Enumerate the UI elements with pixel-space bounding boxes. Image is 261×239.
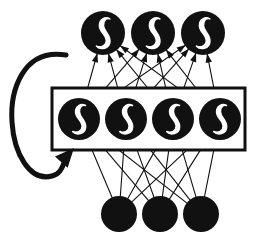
neuron-node-input-3	[183, 196, 219, 232]
arrowhead-icon	[190, 53, 196, 63]
neuron-node-input-2	[142, 196, 178, 232]
neural-network-canvas	[0, 0, 261, 239]
neuron-node-output-3	[181, 11, 225, 55]
neuron-node-hidden-1	[58, 98, 100, 140]
neuron-node-hidden-3	[152, 98, 194, 140]
neuron-circle	[142, 196, 178, 232]
neuron-circle	[183, 196, 219, 232]
neuron-node-hidden-2	[105, 98, 147, 140]
neuron-node-hidden-4	[199, 98, 241, 140]
neuron-node-input-1	[101, 196, 137, 232]
arrowhead-icon	[108, 53, 114, 63]
arrowhead-icon	[92, 53, 98, 63]
neuron-node-output-1	[81, 11, 125, 55]
arrowhead-icon	[120, 45, 129, 53]
arrowhead-icon	[157, 53, 163, 63]
neuron-node-output-2	[131, 11, 175, 55]
recurrent-neural-network-figure	[0, 0, 261, 239]
arrowhead-icon	[116, 49, 124, 58]
arrowhead-icon	[206, 54, 212, 63]
neuron-circle	[101, 196, 137, 232]
